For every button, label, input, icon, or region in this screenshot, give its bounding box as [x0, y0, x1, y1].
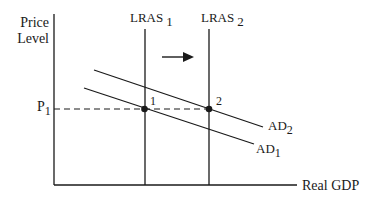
ad1-label: AD1 [256, 141, 281, 160]
point-1-label: 1 [150, 94, 156, 108]
lras2-label: LRAS2 [201, 10, 244, 29]
ad2-label: AD2 [268, 118, 293, 137]
equilibrium-point-1 [141, 106, 148, 113]
equilibrium-point-2 [206, 106, 213, 113]
x-axis-label: Real GDP [302, 178, 359, 193]
y-axis-label-line2: Level [17, 31, 49, 46]
ad-lras-diagram: Price Level Real GDP LRAS1 LRAS2 AD2 AD1… [0, 0, 374, 201]
price-level-label: P1 [37, 99, 51, 118]
point-2-label: 2 [216, 94, 222, 108]
right-arrow-icon [162, 52, 194, 62]
y-axis-label-line1: Price [20, 15, 49, 30]
lras1-label: LRAS1 [130, 10, 173, 29]
